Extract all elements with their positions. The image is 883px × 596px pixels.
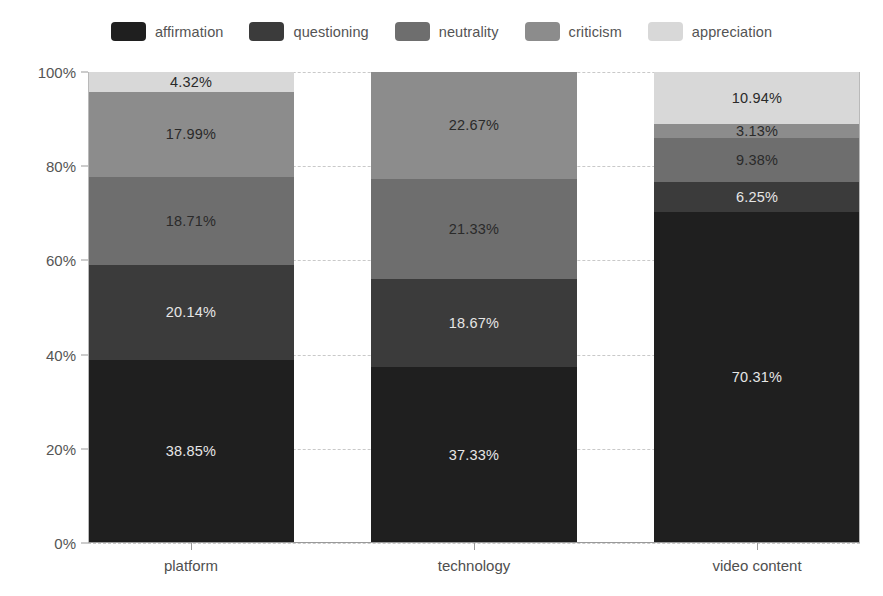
x-tick-label-technology: technology (438, 557, 511, 574)
legend-swatch-criticism (525, 22, 560, 41)
bar-segment-questioning[interactable]: 6.25% (654, 182, 860, 211)
x-tick-label-video-content: video content (712, 557, 801, 574)
legend-label: questioning (293, 24, 368, 40)
legend-item-appreciation[interactable]: appreciation (648, 22, 772, 41)
x-tick-mark (757, 543, 758, 550)
bar-segment-value-label: 9.38% (736, 153, 778, 168)
bar-segment-criticism[interactable]: 3.13% (654, 124, 860, 139)
bar-segment-value-label: 17.99% (166, 127, 216, 142)
bar-segment-value-label: 3.13% (736, 124, 778, 139)
x-tick-mark (474, 543, 475, 550)
legend-item-criticism[interactable]: criticism (525, 22, 622, 41)
bar-segment-value-label: 70.31% (732, 370, 782, 385)
stacked-bar: 37.33%18.67%21.33%22.67% (371, 72, 577, 543)
legend-item-affirmation[interactable]: affirmation (111, 22, 224, 41)
bar-segment-value-label: 21.33% (449, 222, 499, 237)
legend-item-neutrality[interactable]: neutrality (395, 22, 499, 41)
bar-segment-appreciation[interactable]: 10.94% (654, 72, 860, 124)
x-axis: platformtechnologyvideo content (88, 543, 860, 589)
legend-item-questioning[interactable]: questioning (249, 22, 368, 41)
y-tick-label: 40% (46, 346, 88, 363)
legend-label: affirmation (155, 24, 224, 40)
bar-segment-value-label: 22.67% (449, 118, 499, 133)
bar-segment-value-label: 4.32% (170, 75, 212, 90)
legend-label: neutrality (439, 24, 499, 40)
legend-swatch-affirmation (111, 22, 146, 41)
x-tick-mark (191, 543, 192, 550)
bar-segment-affirmation[interactable]: 70.31% (654, 212, 860, 543)
bar-segment-questioning[interactable]: 20.14% (88, 265, 294, 360)
legend-swatch-neutrality (395, 22, 430, 41)
x-tick-label-platform: platform (164, 557, 218, 574)
bar-segment-value-label: 37.33% (449, 448, 499, 463)
bar-group-platform[interactable]: 38.85%20.14%18.71%17.99%4.32% (88, 72, 294, 543)
y-tick-label: 100% (38, 64, 88, 81)
chart-legend: affirmationquestioningneutralitycriticis… (0, 22, 883, 41)
bar-group-technology[interactable]: 37.33%18.67%21.33%22.67% (371, 72, 577, 543)
bar-segment-value-label: 18.71% (166, 214, 216, 229)
bar-segment-affirmation[interactable]: 37.33% (371, 367, 577, 543)
bar-segment-value-label: 20.14% (166, 305, 216, 320)
legend-label: appreciation (692, 24, 772, 40)
y-tick-label: 20% (46, 440, 88, 457)
bar-segment-neutrality[interactable]: 21.33% (371, 179, 577, 279)
bar-series-container: 38.85%20.14%18.71%17.99%4.32%37.33%18.67… (88, 72, 860, 543)
bar-segment-value-label: 6.25% (736, 190, 778, 205)
bar-segment-neutrality[interactable]: 18.71% (88, 177, 294, 265)
bar-group-video-content[interactable]: 70.31%6.25%9.38%3.13%10.94% (654, 72, 860, 543)
bar-segment-appreciation[interactable]: 4.32% (88, 72, 294, 92)
bar-segment-criticism[interactable]: 17.99% (88, 92, 294, 177)
legend-label: criticism (569, 24, 622, 40)
legend-swatch-questioning (249, 22, 284, 41)
bar-segment-value-label: 18.67% (449, 316, 499, 331)
stacked-bar: 70.31%6.25%9.38%3.13%10.94% (654, 72, 860, 543)
y-tick-label: 0% (54, 535, 88, 552)
y-tick-label: 60% (46, 252, 88, 269)
bar-segment-value-label: 38.85% (166, 444, 216, 459)
plot-area: 0%20%40%60%80%100% 38.85%20.14%18.71%17.… (88, 72, 860, 543)
stacked-bar: 38.85%20.14%18.71%17.99%4.32% (88, 72, 294, 543)
bar-segment-value-label: 10.94% (732, 91, 782, 106)
legend-swatch-appreciation (648, 22, 683, 41)
bar-segment-neutrality[interactable]: 9.38% (654, 138, 860, 182)
y-tick-label: 80% (46, 158, 88, 175)
bar-segment-criticism[interactable]: 22.67% (371, 72, 577, 179)
bar-segment-affirmation[interactable]: 38.85% (88, 360, 294, 543)
stacked-bar-chart: affirmationquestioningneutralitycriticis… (0, 0, 883, 596)
bar-segment-questioning[interactable]: 18.67% (371, 279, 577, 367)
